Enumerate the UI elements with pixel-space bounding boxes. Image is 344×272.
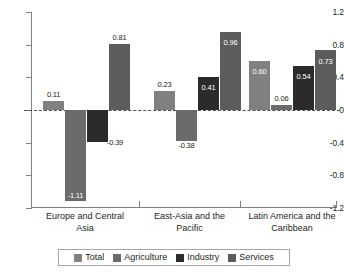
category-label-europe-central-asia: Europe and Central Asia [31,211,139,234]
bar-label-g2-agriculture: 0.06 [269,95,294,103]
chart-legend: Total Agriculture Industry Services [58,249,290,266]
legend-label-industry: Industry [187,253,219,262]
bar-label-g0-industry: -0.39 [107,139,132,147]
y-tick--0.8 [26,175,32,176]
bar-label-g2-industry: 0.54 [291,73,316,81]
bar-g1-total [154,91,175,110]
bar-g0-industry [87,110,108,142]
bar-g0-total [43,101,64,110]
legend-label-services: Services [239,253,274,262]
y-axis-label--0.8: -0.8 [320,171,344,180]
bar-g0-services [109,44,130,110]
category-label-line-2: Asia [31,223,139,235]
legend-swatch-icon-agriculture [113,254,121,262]
bar-label-g1-services: 0.96 [218,39,243,47]
y-axis-label-0.8: 0.8 [320,41,344,50]
bar-label-g0-agriculture: -1.11 [63,192,88,200]
bar-label-g0-services: 0.81 [107,34,132,42]
category-label-line-2: Caribbean [240,223,344,235]
legend-swatch-icon-total [74,254,82,262]
y-tick-1.2 [26,12,32,13]
x-axis-tick-end [336,201,337,208]
bar-g2-agriculture [271,105,292,110]
y-axis-label--0.4: -0.4 [320,139,344,148]
y-tick--0.4 [26,143,32,144]
legend-item-total[interactable]: Total [74,253,104,262]
bar-label-g1-total: 0.23 [152,81,177,89]
x-axis-tick-1 [139,201,140,208]
legend-label-agriculture: Agriculture [124,253,167,262]
legend-item-services[interactable]: Services [228,253,274,262]
category-label-line-1: East-Asia and the [139,211,240,223]
bar-label-g2-total: 0.60 [247,68,272,76]
category-label-latin-america-caribbean: Latin America and the Caribbean [240,211,344,234]
legend-item-industry[interactable]: Industry [176,253,219,262]
category-label-line-1: Europe and Central [31,211,139,223]
category-label-east-asia-pacific: East-Asia and the Pacific [139,211,240,234]
legend-item-agriculture[interactable]: Agriculture [113,253,167,262]
legend-swatch-icon-industry [176,254,184,262]
x-axis-tick-start [31,201,32,208]
legend-swatch-icon-services [228,254,236,262]
legend-label-total: Total [85,253,104,262]
y-tick--1.2 [26,208,32,209]
y-tick-0.8 [26,45,32,46]
bar-g0-agriculture [65,110,86,201]
bar-label-g2-services: 0.73 [313,58,338,66]
bar-g1-agriculture [176,110,197,141]
bar-label-g1-agriculture: -0.38 [174,142,199,150]
x-axis-tick-2 [240,201,241,208]
category-label-line-2: Pacific [139,223,240,235]
bar-label-g0-total: 0.11 [41,91,66,99]
y-axis-label-1.2: 1.2 [320,8,344,17]
x-axis-line [31,207,337,208]
bar-label-g1-industry: 0.41 [196,84,221,92]
category-label-line-1: Latin America and the [240,211,344,223]
bar-chart: 1.2 0.8 0.4 0 -0.4 -0.8 -1.2 0.11 -1.11 … [0,0,344,272]
bar-g1-industry [198,77,219,111]
y-tick-0.4 [26,77,32,78]
